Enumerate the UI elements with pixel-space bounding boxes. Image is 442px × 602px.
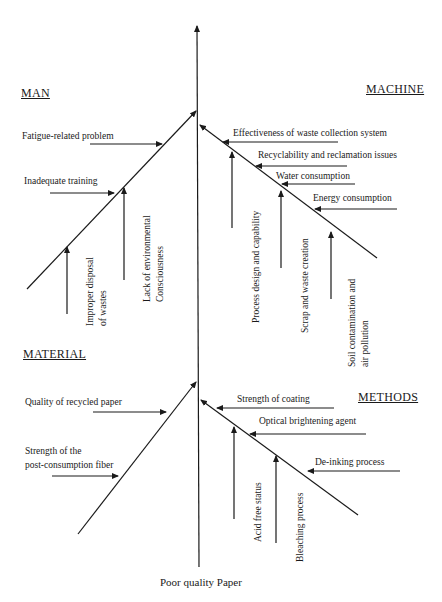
category-methods: METHODS xyxy=(358,390,418,405)
cause-recyclability: Recyclability and reclamation issues xyxy=(258,150,397,162)
cause-water: Water consumption xyxy=(276,171,350,183)
category-machine: MACHINE xyxy=(366,82,424,97)
category-man: MAN xyxy=(21,86,50,101)
cause-optical-brightening: Optical brightening agent xyxy=(259,416,356,428)
cause-energy: Energy consumption xyxy=(313,193,392,205)
cause-soil-contamination: Soil contamination and air pollution xyxy=(346,279,372,367)
cause-process-design: Process design and capability xyxy=(250,211,263,323)
machine-bone xyxy=(200,125,377,258)
cause-lack-consciousness: Lack of environmental Consciousness xyxy=(141,215,167,302)
cause-training: Inadequate training xyxy=(24,176,98,188)
cause-coating-strength: Strength of coating xyxy=(237,394,310,406)
cause-fatigue: Fatigue-related problem xyxy=(22,131,114,143)
cause-deinking: De-inking process xyxy=(315,457,384,469)
cause-fiber-strength: Strength of the post-consumption fiber xyxy=(25,446,113,472)
cause-scrap-waste: Scrap and waste creation xyxy=(299,238,312,333)
cause-bleaching: Bleaching process xyxy=(294,493,307,562)
cause-recycled-paper-quality: Quality of recycled paper xyxy=(25,397,122,409)
cause-waste-collection: Effectiveness of waste collection system xyxy=(233,128,387,140)
cause-acid-free: Acid free status xyxy=(252,482,265,542)
spine xyxy=(197,26,199,567)
category-material: MATERIAL xyxy=(23,347,86,362)
cause-improper-disposal: Improper disposal of wastes xyxy=(84,257,110,326)
effect-label: Poor quality Paper xyxy=(160,576,242,588)
